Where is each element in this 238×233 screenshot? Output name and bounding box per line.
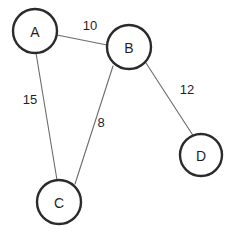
node-c[interactable]: C xyxy=(37,180,81,224)
node-group: A B C D xyxy=(13,9,222,224)
edge-b-c xyxy=(75,66,113,184)
graph-diagram-canvas: A B C D 10 15 8 12 xyxy=(0,0,238,233)
node-b-label: B xyxy=(124,40,133,56)
node-d[interactable]: D xyxy=(180,134,222,176)
graph-svg: A B C D 10 15 8 12 xyxy=(0,0,238,233)
node-a-label: A xyxy=(30,24,40,40)
edge-a-b xyxy=(57,35,107,45)
edge-weight-b-d: 12 xyxy=(180,82,194,97)
edge-a-c xyxy=(36,53,57,180)
node-c-label: C xyxy=(54,195,64,211)
node-d-label: D xyxy=(196,148,206,164)
node-b[interactable]: B xyxy=(107,25,151,69)
edge-weight-b-c: 8 xyxy=(97,115,104,130)
edge-weight-a-b: 10 xyxy=(83,18,97,33)
edge-weight-a-c: 15 xyxy=(23,92,37,107)
node-a[interactable]: A xyxy=(13,9,57,53)
edge-b-d xyxy=(146,63,194,137)
